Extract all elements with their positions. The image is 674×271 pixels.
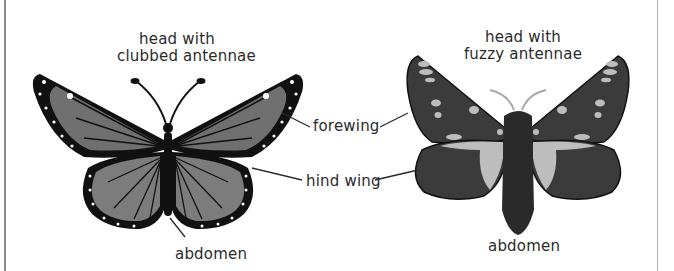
butterfly-abdomen-label: abdomen bbox=[175, 246, 247, 263]
moth-head-label-line1: head with bbox=[463, 29, 583, 46]
forewing-label: forewing bbox=[313, 118, 380, 135]
butterfly-left-forewing bbox=[33, 74, 164, 158]
moth-head-label-line2: fuzzy antennae bbox=[463, 46, 583, 63]
moth-right-forewing bbox=[531, 56, 629, 144]
butterfly-head-label: head with clubbed antennae bbox=[117, 31, 237, 65]
moth-left-forewing bbox=[407, 56, 505, 144]
butterfly-left-hindwing bbox=[83, 152, 164, 229]
butterfly-abdomen bbox=[164, 132, 172, 216]
butterfly-right-hindwing bbox=[172, 152, 253, 229]
butterfly-head-label-line1: head with bbox=[117, 31, 237, 48]
butterfly-head-label-line2: clubbed antennae bbox=[117, 48, 237, 65]
moth-abdomen-label: abdomen bbox=[488, 238, 560, 255]
butterfly-head bbox=[163, 123, 173, 133]
moth-head-label: head with fuzzy antennae bbox=[463, 29, 583, 63]
moth-fuzzy-antennae bbox=[490, 90, 546, 110]
butterfly-clubbed-antennae bbox=[136, 81, 200, 124]
butterfly-illustration bbox=[33, 74, 303, 229]
hind-wing-label: hind wing bbox=[306, 173, 381, 190]
moth-illustration bbox=[407, 56, 629, 235]
moth-abdomen bbox=[502, 111, 534, 235]
butterfly-right-forewing bbox=[172, 74, 303, 158]
